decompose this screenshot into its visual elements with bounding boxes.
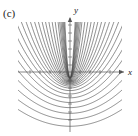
y-axis-arrow <box>68 17 72 22</box>
x-axis-label: x <box>127 67 132 77</box>
parabola-curve <box>1 97 138 127</box>
parabola-curve <box>1 85 138 120</box>
parabola-curve <box>1 0 138 86</box>
x-axis-arrow <box>119 70 124 74</box>
y-axis-label: y <box>73 5 78 15</box>
parabola-family-plot: x y <box>0 0 138 136</box>
figure-panel: (c) x y <box>0 0 138 136</box>
